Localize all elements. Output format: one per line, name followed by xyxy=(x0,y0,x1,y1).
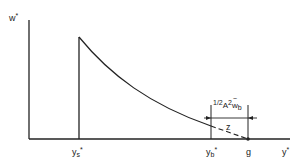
yb-sup: * xyxy=(214,146,217,153)
y-axis-label: w* xyxy=(9,14,18,23)
y-axis-label-text: w xyxy=(9,13,16,23)
tick-label-yb: yb* xyxy=(206,148,217,157)
tick-label-g: g xyxy=(246,148,251,157)
annotation-w-sub: b xyxy=(238,104,242,111)
arrow-left-icon xyxy=(248,116,253,120)
ys-sup: * xyxy=(80,146,83,153)
ys-base: y xyxy=(72,147,77,157)
annotation-w-group: ~w xyxy=(232,101,238,110)
y-axis-label-sup: * xyxy=(16,12,19,19)
x-axis-label-text: y xyxy=(282,147,287,157)
annotation-tilde: ~ xyxy=(233,95,237,102)
annotation-fraction: 1/2 xyxy=(213,99,223,106)
decay-curve xyxy=(79,37,211,126)
tick-label-ys: ys* xyxy=(72,148,83,157)
x-axis-label-sup: * xyxy=(287,146,290,153)
yb-base: y xyxy=(206,147,211,157)
annotation-top: 1/2A2~wb xyxy=(213,102,242,110)
annotation-w: w xyxy=(232,101,238,110)
arrow-right-icon xyxy=(206,116,211,120)
annotation-z: z xyxy=(226,123,231,132)
diagram-canvas xyxy=(0,0,305,166)
x-axis-label: y* xyxy=(282,148,289,157)
